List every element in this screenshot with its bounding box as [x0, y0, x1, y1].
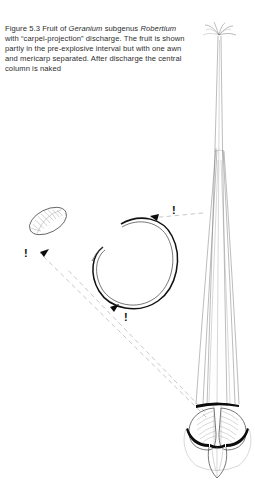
arrowhead-mericarp [40, 249, 49, 257]
attached-awns [196, 148, 239, 404]
exclamation-marker-mericarp: ! [24, 248, 28, 259]
fruit-beak-lines [212, 447, 223, 477]
mericarp-cluster [184, 403, 251, 479]
column-midline [217, 40, 220, 404]
column-edge-left [207, 36, 218, 406]
mericarp-left-striations [197, 405, 215, 448]
column-edge-right [221, 36, 227, 406]
mericarp-inner-edge [33, 209, 66, 233]
stigma-lobe-5 [219, 34, 236, 36]
awn-coil-inner [97, 222, 173, 305]
mericarp-right-striations [220, 405, 238, 448]
central-column [196, 22, 239, 406]
fruit-beak-outline [208, 447, 226, 478]
awn-coil-stroke [93, 218, 178, 309]
stigma-lobe-7 [219, 29, 231, 35]
figure-container: Figure 5.3 Fruit of Geranium subgenus Ro… [0, 0, 255, 482]
mericarp-outline [25, 202, 71, 241]
stigma-lobe-2 [214, 22, 219, 35]
awn-strand-left-outer [196, 148, 216, 404]
stigma-lobe-3 [219, 23, 225, 35]
botanical-illustration [0, 0, 255, 482]
trajectory-to-awn-lower [66, 268, 205, 412]
exclamation-marker-awn-lower: ! [124, 312, 128, 323]
awn-strand-core-left [209, 160, 218, 404]
crescent-scar-centre [210, 444, 225, 449]
trajectory-group [40, 213, 206, 417]
base-collar-shadow [196, 403, 239, 409]
detached-mericarp [25, 202, 71, 241]
receptacle-base-line [197, 466, 238, 471]
stigma-lobe-6 [203, 34, 219, 36]
awn-strand-left-inner [203, 150, 217, 404]
exclamation-marker-awn-upper: ! [172, 205, 176, 216]
trajectory-to-mericarp [40, 253, 206, 417]
stigma-crown [203, 22, 236, 35]
coiled-awn [92, 218, 177, 309]
